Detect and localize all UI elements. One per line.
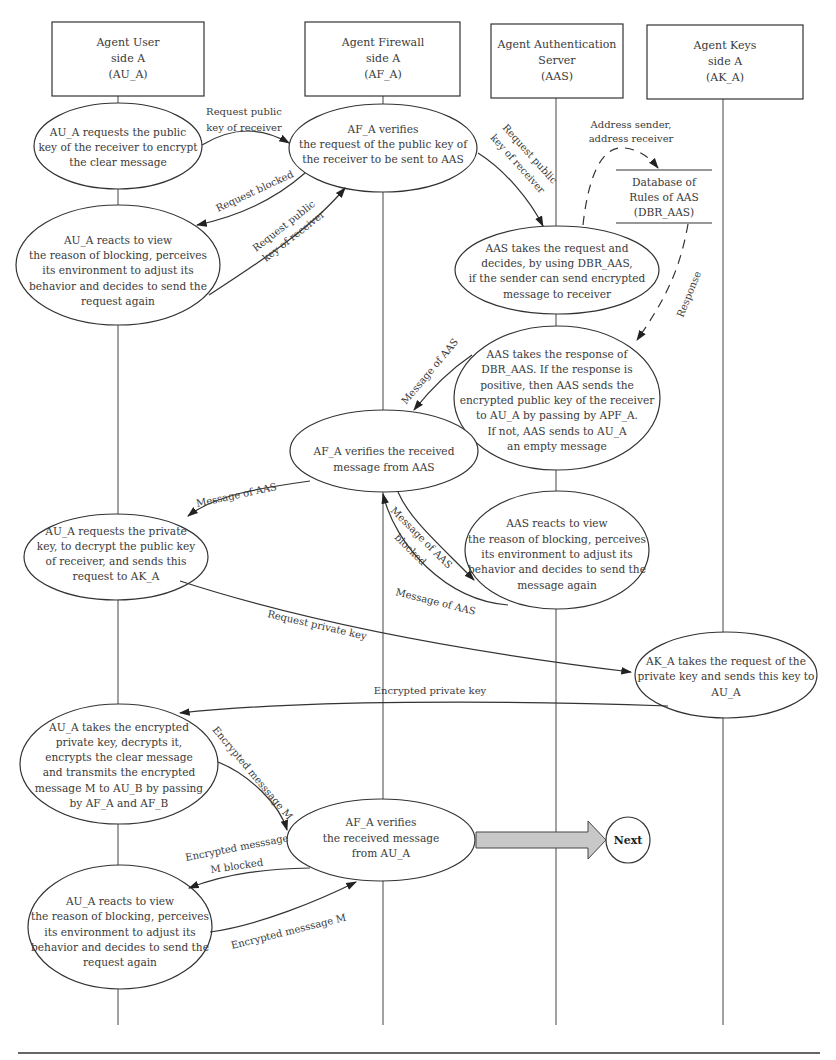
node-af-verify-request: AF_A verifies the request of the public … bbox=[289, 104, 477, 192]
node-line: message again bbox=[517, 579, 597, 591]
node-line: message to receiver bbox=[503, 288, 612, 300]
edge-request-public-key-1 bbox=[202, 131, 289, 145]
node-au-request-public-key: AU_A requests the public key of the rece… bbox=[34, 103, 202, 189]
node-line: the reason of blocking, perceives bbox=[31, 910, 209, 922]
agent-header-line: (AK_A) bbox=[706, 71, 744, 84]
edge-label: Encrypted messsage M bbox=[210, 724, 294, 822]
node-line: AAS takes the request and bbox=[485, 242, 629, 254]
node-af-verify-au-message: AF_A verifies the received message from … bbox=[287, 799, 475, 881]
node-aas-take-request: AAS takes the request and decides, by us… bbox=[455, 226, 659, 314]
agent-header-line: Agent Keys bbox=[693, 39, 757, 52]
next-button[interactable]: Next bbox=[606, 817, 650, 863]
node-line: AF_A verifies bbox=[347, 123, 419, 136]
node-line: AAS takes the response of bbox=[486, 348, 629, 360]
edge-encrypted-message-blocked bbox=[189, 868, 310, 888]
database-line: (DBR_AAS) bbox=[634, 206, 694, 219]
edge-label: Request public bbox=[206, 106, 282, 117]
node-line: AU_A reacts to view bbox=[63, 234, 172, 247]
node-line: behavior and decides to send the bbox=[31, 941, 209, 953]
node-line: message M to AU_B by passing bbox=[35, 782, 203, 795]
node-line: the reason of blocking, perceives bbox=[468, 533, 646, 545]
node-line: to AU_A by passing by APF_A. bbox=[476, 409, 638, 422]
database-dbr-aas: Database of Rules of AAS (DBR_AAS) bbox=[616, 170, 712, 223]
node-line: private key, decrypts it, bbox=[56, 736, 182, 748]
node-au-react-blocking-1: AU_A reacts to view the reason of blocki… bbox=[16, 205, 220, 325]
edge-label: Encrypted private key bbox=[374, 685, 487, 696]
node-line: behavior and decides to send the bbox=[29, 280, 207, 292]
node-line: request again bbox=[81, 295, 155, 307]
node-line: behavior and decides to send the bbox=[468, 563, 646, 575]
agent-header-line: side A bbox=[111, 52, 146, 65]
node-af-verify-aas-message: AF_A verifies the received message from … bbox=[290, 410, 478, 492]
edge-label-response: Response bbox=[675, 270, 703, 319]
agent-header-line: Agent Authentication bbox=[497, 38, 617, 51]
node-line: AU_A requests the public bbox=[49, 126, 186, 139]
edge-label: Request blocked bbox=[214, 168, 295, 214]
node-line: key, to decrypt the public key bbox=[37, 540, 195, 552]
edge-label: Message of AAS bbox=[195, 481, 278, 509]
edge-label: M blocked bbox=[210, 857, 265, 875]
node-line: if the sender can send encrypted bbox=[469, 272, 646, 284]
node-line: and transmits the encrypted bbox=[43, 766, 196, 778]
agent-header-line: (AF_A) bbox=[364, 68, 402, 81]
node-line: decides, by using DBR_AAS, bbox=[481, 257, 632, 270]
node-line: its environment to adjust its bbox=[481, 548, 632, 560]
edge-label-address: address receiver bbox=[589, 133, 674, 144]
agent-header-aas: Agent Authentication Server (AAS) bbox=[491, 24, 623, 98]
edge-label: key of receiver bbox=[206, 122, 282, 133]
edge-label: Message of AAS bbox=[395, 586, 477, 617]
node-line: AF_A verifies the received bbox=[313, 445, 455, 458]
edge-label: Encrypted messsage M bbox=[230, 912, 347, 951]
node-au-request-private-key: AU_A requests the private key, to decryp… bbox=[24, 514, 208, 600]
node-line: request again bbox=[83, 956, 157, 968]
node-line: by AF_A and AF_B bbox=[70, 797, 169, 810]
node-line: private key and sends this key to bbox=[638, 670, 815, 682]
next-label: Next bbox=[614, 834, 644, 847]
agent-header-line: Server bbox=[538, 54, 576, 67]
agent-header-af-a: Agent Firewall side A (AF_A) bbox=[305, 22, 460, 96]
node-line: AU_A bbox=[710, 686, 741, 699]
node-line: AAS reacts to view bbox=[505, 517, 607, 529]
agent-header-line: Agent Firewall bbox=[341, 36, 425, 49]
node-line: encrypted public key of the receiver bbox=[460, 394, 656, 406]
agent-header-line: (AU_A) bbox=[108, 68, 147, 81]
agent-header-line: side A bbox=[708, 55, 743, 68]
agent-header-au-a: Agent User side A (AU_A) bbox=[52, 22, 204, 96]
node-line: positive, then AAS sends the bbox=[480, 379, 634, 391]
node-line: key of the receiver to encrypt bbox=[38, 141, 198, 153]
agent-header-line: (AAS) bbox=[541, 70, 573, 83]
node-line: DBR_AAS. If the response is bbox=[481, 363, 632, 376]
edge-label: Encrypted messsage bbox=[184, 832, 289, 863]
node-line: message from AAS bbox=[333, 461, 434, 473]
node-line: request to AK_A bbox=[73, 570, 160, 583]
next-arrow bbox=[476, 821, 606, 859]
database-line: Rules of AAS bbox=[629, 191, 699, 203]
node-line: its environment to adjust its bbox=[42, 264, 193, 276]
node-ak-send-private-key: AK_A takes the request of the private ke… bbox=[635, 632, 817, 718]
agent-header-line: Agent User bbox=[95, 36, 160, 49]
node-line: AF_A verifies bbox=[345, 816, 417, 829]
node-line: its environment to adjust its bbox=[44, 926, 195, 938]
edge-message-of-aas-blocked bbox=[398, 492, 474, 580]
node-line: encrypts the clear message bbox=[45, 751, 193, 763]
edge-label: Request private key bbox=[267, 608, 368, 642]
edge-label-address: Address sender, bbox=[590, 119, 672, 130]
node-au-react-blocking-2: AU_A reacts to view the reason of blocki… bbox=[28, 865, 212, 989]
node-line: of receiver, and sends this bbox=[46, 555, 187, 567]
edge-encrypted-private-key bbox=[180, 702, 668, 713]
node-line: the clear message bbox=[69, 156, 167, 168]
node-line: If not, AAS sends to AU_A bbox=[487, 425, 627, 438]
node-line: the request of the public key of bbox=[299, 138, 468, 150]
node-line: from AU_A bbox=[352, 847, 411, 860]
sequence-diagram: Agent User side A (AU_A) Agent Firewall … bbox=[0, 0, 836, 1060]
node-line: the reason of blocking, perceives bbox=[29, 249, 207, 261]
node-line: the received message bbox=[323, 832, 440, 844]
agent-header-ak-a: Agent Keys side A (AK_A) bbox=[647, 25, 803, 99]
node-aas-react-blocking: AAS reacts to view the reason of blockin… bbox=[465, 491, 649, 609]
node-aas-take-response: AAS takes the response of DBR_AAS. If th… bbox=[454, 326, 660, 470]
node-line: an empty message bbox=[507, 440, 607, 452]
node-line: the receiver to be sent to AAS bbox=[302, 153, 463, 165]
node-line: AK_A takes the request of the bbox=[645, 655, 806, 668]
node-au-encrypt-transmit: AU_A takes the encrypted private key, de… bbox=[20, 704, 218, 824]
agent-header-line: side A bbox=[366, 52, 401, 65]
